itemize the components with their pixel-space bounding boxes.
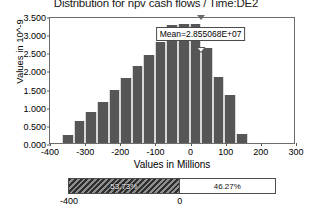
- x-tick-mark: [85, 143, 86, 146]
- percentile-divider-label: 0: [177, 196, 182, 206]
- x-tick-mark: [120, 143, 121, 146]
- x-tick-mark: [226, 143, 227, 146]
- histogram-bar: [97, 102, 109, 143]
- plot-area: 0.0000.5001.0001.5002.0002.5003.0003.500…: [49, 17, 295, 144]
- histogram-bar: [201, 48, 213, 143]
- percentile-right-label: 46.27%: [214, 182, 241, 191]
- percentile-left-endpoint-label: -400: [60, 196, 78, 206]
- histogram-bar: [155, 42, 167, 143]
- y-tick-label: 1.500: [23, 86, 46, 96]
- x-tick-label: -400: [41, 147, 59, 157]
- y-tick-label: 3.500: [23, 13, 46, 23]
- percentile-right-region[interactable]: 46.27%: [180, 179, 275, 193]
- x-tick-label: -300: [76, 147, 94, 157]
- histogram-bar: [236, 134, 248, 143]
- mean-slider-handle-icon[interactable]: [197, 15, 205, 20]
- x-tick-mark: [261, 143, 262, 146]
- histogram-bar: [62, 135, 74, 143]
- x-tick-label: 200: [253, 147, 268, 157]
- x-axis-title: Values in Millions: [49, 159, 295, 170]
- histogram-bar: [166, 25, 178, 143]
- x-tick-label: -200: [111, 147, 129, 157]
- histogram-bar: [109, 90, 121, 143]
- y-tick-label: 2.000: [23, 67, 46, 77]
- y-tick-label: 2.500: [23, 49, 46, 59]
- y-tick-label: 1.000: [23, 104, 46, 114]
- histogram-bar: [74, 121, 86, 143]
- histogram-bar: [120, 78, 132, 143]
- histogram-bar: [85, 112, 97, 143]
- x-tick-label: 0: [188, 147, 193, 157]
- x-tick-mark: [155, 143, 156, 146]
- histogram-bar: [178, 24, 190, 143]
- histogram-bar: [132, 66, 144, 143]
- chart-title: Distribution for npv cash flows / Time:D…: [0, 0, 312, 9]
- histogram-bar: [213, 77, 225, 143]
- x-tick-mark: [191, 143, 192, 146]
- histogram-bar: [143, 55, 155, 143]
- percentile-left-region[interactable]: 53.73%: [69, 179, 180, 193]
- percentile-slider-bar[interactable]: 53.73% 46.27%: [68, 178, 276, 194]
- x-tick-mark: [296, 143, 297, 146]
- x-tick-mark: [50, 143, 51, 146]
- x-tick-label: -100: [146, 147, 164, 157]
- histogram-bar: [224, 95, 236, 143]
- x-tick-label: 100: [218, 147, 233, 157]
- y-tick-label: 3.000: [23, 31, 46, 41]
- mean-pointer-icon: [196, 39, 205, 57]
- x-tick-label: 300: [288, 147, 303, 157]
- percentile-left-label: 53.73%: [110, 182, 137, 191]
- y-tick-label: 0.500: [23, 122, 46, 132]
